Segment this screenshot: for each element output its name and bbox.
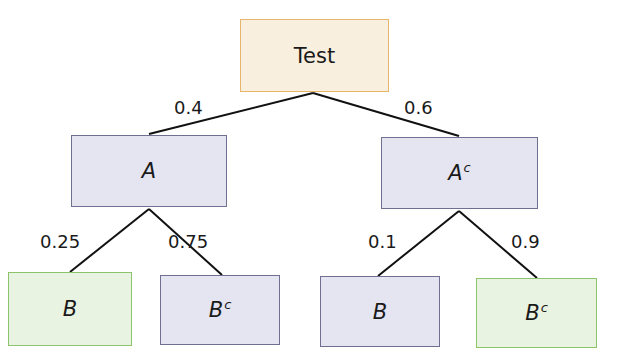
prob-ac-b: 0.1 bbox=[368, 231, 397, 252]
prob-a-b: 0.25 bbox=[40, 231, 80, 252]
edge-a-b bbox=[70, 209, 149, 272]
node-a-bc: Bc bbox=[160, 275, 280, 345]
node-a-b-label: B bbox=[63, 297, 77, 321]
node-ac-superscript: c bbox=[464, 160, 471, 175]
node-a-b: B bbox=[8, 272, 132, 346]
prob-a-bc: 0.75 bbox=[168, 231, 208, 252]
node-ac-b-label: B bbox=[373, 300, 387, 324]
node-ac-bc: Bc bbox=[476, 278, 597, 348]
node-ac-bc-label: B bbox=[525, 301, 539, 325]
edge-test-ac bbox=[313, 93, 459, 136]
node-a-bc-superscript: c bbox=[224, 297, 231, 312]
node-a-label: A bbox=[142, 159, 156, 183]
node-ac-b: B bbox=[320, 276, 440, 347]
prob-ac: 0.6 bbox=[404, 97, 433, 118]
node-ac-bc-superscript: c bbox=[541, 300, 548, 315]
node-ac-label: A bbox=[448, 161, 462, 185]
node-test-label: Test bbox=[294, 44, 335, 68]
node-test: Test bbox=[240, 19, 389, 92]
prob-a: 0.4 bbox=[174, 97, 203, 118]
node-ac: Ac bbox=[381, 137, 538, 209]
node-a-bc-label: B bbox=[209, 298, 223, 322]
prob-ac-bc: 0.9 bbox=[511, 231, 540, 252]
node-a: A bbox=[71, 135, 227, 207]
